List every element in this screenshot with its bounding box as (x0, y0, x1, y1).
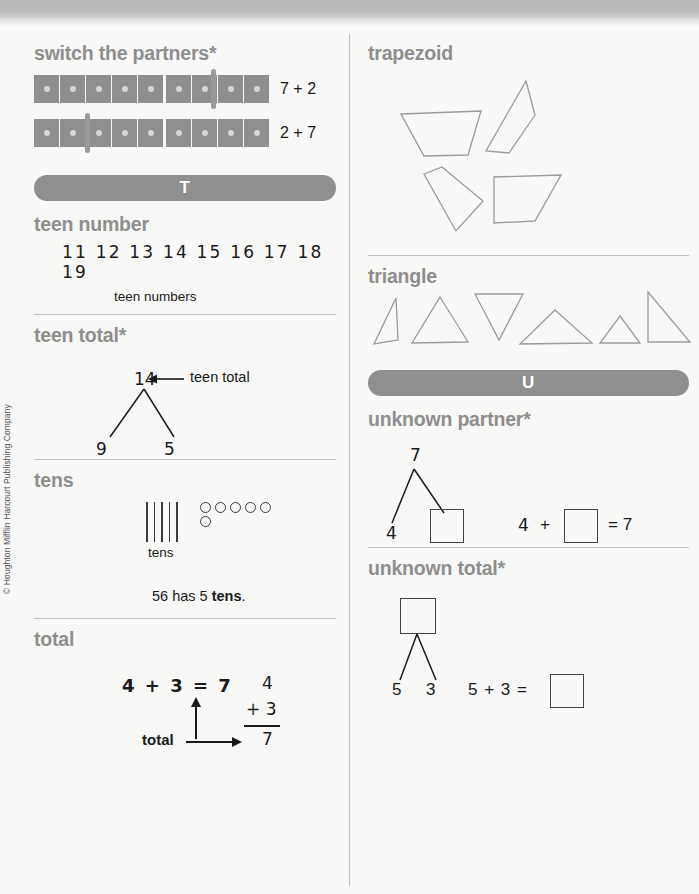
bar-dot (176, 130, 182, 136)
equation-addend: 4 (518, 515, 529, 535)
term-unknown-total: unknown total* (368, 557, 699, 580)
section-banner-u: U (368, 370, 689, 396)
bar-dot (176, 86, 182, 92)
bar-cell (60, 119, 86, 147)
right-column: trapezoid triangle U (352, 30, 699, 710)
ones-circle (245, 502, 256, 513)
unknown-total-equation: 5 + 3 = (468, 680, 528, 700)
tens-stick (154, 502, 156, 542)
bar-cell (34, 119, 60, 147)
bar-cell (60, 75, 86, 103)
arrow-right-icon (186, 735, 246, 749)
ones-circle (260, 502, 271, 513)
bar-dot (148, 130, 154, 136)
partner-branches (388, 632, 468, 686)
bar-dot (122, 86, 128, 92)
tens-picture-label: tens (148, 545, 348, 560)
term-total: total (34, 628, 348, 651)
bar-cell (244, 75, 270, 103)
number-bar-row-1: 7 + 2 (34, 75, 348, 103)
bar-cell (218, 119, 244, 147)
bar-dot (96, 86, 102, 92)
bar-cell (112, 119, 138, 147)
bar-equation-1: 7 + 2 (280, 80, 316, 98)
teen-total-partner-right: 5 (164, 439, 175, 459)
entry-tens: tens (34, 469, 348, 604)
tens-stick (161, 502, 163, 542)
bar-cell (192, 119, 218, 147)
entry-teen-number: teen number 11 12 13 14 15 16 17 18 19 t… (34, 213, 348, 304)
trapezoid-shape (401, 111, 481, 156)
bar-cell (166, 119, 192, 147)
total-diagram: 4 + 3 = 7 total 4 + 3 7 (34, 651, 348, 761)
tens-sticks (146, 502, 178, 542)
left-column: switch the partners* 7 + 2 (0, 30, 348, 761)
unknown-total-partner-right: 3 (426, 680, 435, 700)
unknown-partner-total: 7 (410, 445, 421, 465)
ones-circle (230, 502, 241, 513)
bar-dot (202, 86, 208, 92)
tens-sentence-suffix: . (242, 588, 246, 604)
arrow-left-icon (146, 371, 186, 387)
tens-picture (146, 502, 348, 542)
trapezoid-shape (486, 81, 535, 153)
bar-dot (228, 130, 234, 136)
trapezoid-shape (494, 175, 561, 223)
scan-top-edge (0, 0, 699, 22)
total-equation: 4 + 3 = 7 (122, 675, 233, 696)
vertical-sum-rule (244, 725, 280, 727)
ones-circle-row-bottom (200, 516, 271, 527)
tens-stick (146, 502, 148, 542)
term-triangle: triangle (368, 265, 699, 288)
term-teen-total: teen total* (34, 324, 348, 347)
triangle-shape (412, 297, 468, 343)
entry-divider (34, 618, 336, 619)
triangle-shape (374, 298, 398, 344)
teen-numbers-caption: teen numbers (114, 289, 348, 304)
banner-letter: T (180, 178, 191, 198)
bar-dot (254, 86, 260, 92)
term-tens: tens (34, 469, 348, 492)
bar-dot (148, 86, 154, 92)
equation-equals-result: = 7 (608, 515, 632, 535)
teen-total-diagram: 14 teen total 9 5 (34, 347, 348, 467)
teen-number-list: 11 12 13 14 15 16 17 18 19 (62, 242, 348, 282)
banner-letter: U (522, 373, 535, 393)
term-switch-the-partners: switch the partners* (34, 42, 348, 65)
unknown-total-answer-box[interactable] (550, 674, 584, 708)
unknown-partner-box[interactable] (430, 509, 464, 543)
ones-circle (200, 502, 211, 513)
bar-cell (112, 75, 138, 103)
bar-dot (96, 130, 102, 136)
section-banner-t: T (34, 175, 336, 201)
number-bar-2-plus-7 (34, 119, 270, 147)
entry-divider (368, 255, 689, 256)
term-trapezoid: trapezoid (368, 42, 699, 65)
bar-dot (254, 130, 260, 136)
partner-split-marker (211, 69, 216, 109)
equation-plus-sign: + (540, 515, 550, 535)
bar-cell (138, 75, 166, 103)
bar-dot (70, 86, 76, 92)
triangle-shape (475, 294, 523, 340)
equation-answer-box[interactable] (564, 509, 598, 543)
bar-equation-2: 2 + 7 (280, 124, 316, 142)
unknown-total-diagram: 5 3 5 + 3 = (368, 580, 699, 710)
bar-cell (138, 119, 166, 147)
entry-total: total 4 + 3 = 7 total 4 + 3 7 (34, 628, 348, 761)
teen-total-partner-left: 9 (96, 439, 107, 459)
unknown-total-box[interactable] (400, 598, 436, 634)
entry-switch-the-partners: switch the partners* 7 + 2 (34, 42, 348, 147)
partner-branches (96, 387, 196, 443)
entry-unknown-total: unknown total* 5 3 5 + 3 = (368, 557, 699, 710)
glossary-page: © Houghton Mifflin Harcourt Publishing C… (0, 0, 699, 894)
tens-sentence: 56 has 5 tens. (152, 588, 348, 604)
tens-sentence-prefix: 56 has 5 (152, 588, 212, 604)
entry-divider (34, 314, 336, 315)
bar-dot (70, 130, 76, 136)
vertical-addend-bottom: + 3 (246, 699, 276, 719)
vertical-sum: 7 (262, 729, 273, 749)
triangle-shape (600, 316, 640, 343)
entry-unknown-partner: unknown partner* 7 4 4 + = 7 (368, 408, 699, 551)
bar-cell (34, 75, 60, 103)
